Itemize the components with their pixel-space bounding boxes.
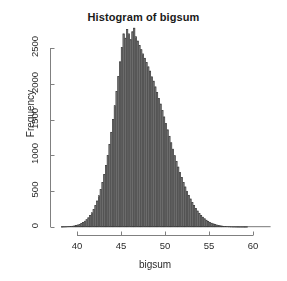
plot-area-canvas	[0, 0, 287, 281]
x-tick-label: 60	[238, 240, 268, 251]
y-tick-label: 1000	[29, 134, 40, 174]
x-tick-label: 50	[150, 240, 180, 251]
x-tick-label: 55	[194, 240, 224, 251]
y-tick-label: 2500	[29, 27, 40, 67]
y-tick-label: 0	[29, 206, 40, 246]
x-axis-label: bigsum	[50, 259, 260, 270]
y-tick-label: 500	[29, 170, 40, 210]
histogram-plot: Histogram of bigsum Frequency bigsum 050…	[0, 0, 287, 281]
x-tick-label: 45	[106, 240, 136, 251]
y-tick-label: 2000	[29, 62, 40, 102]
x-tick-label: 40	[62, 240, 92, 251]
y-tick-label: 1500	[29, 98, 40, 138]
